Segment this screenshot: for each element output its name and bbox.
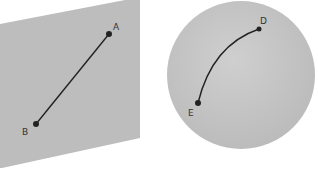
label-d: D [260,16,267,26]
diagram-canvas: A B D E [0,0,318,174]
point-d [257,27,262,32]
plane-panel: A B [0,0,140,168]
label-e: E [188,108,194,118]
point-a [106,31,112,37]
sphere-surface [167,1,315,149]
label-b: B [22,127,28,137]
point-b [33,121,39,127]
point-e [195,100,201,106]
label-a: A [113,22,120,32]
sphere-panel: D E [167,1,315,149]
